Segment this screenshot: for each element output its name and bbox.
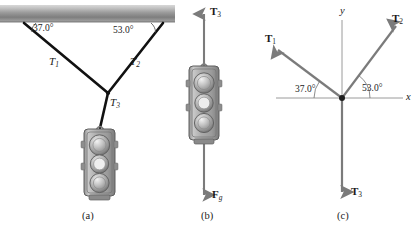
vector-label-t1-c: T1 (265, 33, 276, 45)
tension-label-t1-a: T1 (49, 56, 59, 68)
force-label-t3-b: T3 (210, 6, 221, 18)
traffic-light-b (186, 66, 222, 144)
ceiling-slab (0, 5, 175, 22)
vector-label-t2-c: T2 (392, 13, 403, 25)
x-axis-label: x (406, 92, 411, 103)
tension-label-t2-a: T2 (130, 56, 140, 68)
panel-c: y x 37.0° 53.0° T1 T2 T3 (c) (255, 0, 416, 227)
panel-b: T3 Fg (b) (150, 0, 260, 227)
angle-label-right-c: 53.0° (362, 83, 382, 93)
cable-t3 (100, 93, 108, 128)
panel-c-graphics (255, 0, 416, 227)
lamp-bot-a (90, 173, 109, 192)
vector-label-t3-c: T3 (351, 186, 362, 198)
panel-b-graphics (150, 0, 260, 227)
traffic-light-a (81, 129, 118, 200)
angle-label-left-c: 37.0° (295, 84, 315, 94)
knot (106, 91, 110, 95)
force-label-fg-b: Fg (212, 189, 222, 201)
panel-a-graphics (0, 0, 175, 227)
panel-a: 37.0° 53.0° T1 T2 T3 (a) (0, 0, 175, 227)
caption-c: (c) (337, 210, 349, 221)
lamp-bot-b (194, 113, 213, 132)
lamp-top-b (194, 73, 214, 93)
physics-figure: 37.0° 53.0° T1 T2 T3 (a) (0, 0, 416, 227)
caption-a: (a) (82, 210, 94, 221)
caption-b: (b) (201, 210, 213, 221)
tension-label-t3-a: T3 (110, 97, 120, 109)
cable-t1 (24, 23, 108, 93)
lamp-top-a (89, 135, 109, 155)
angle-label-right-a: 53.0° (113, 25, 133, 35)
origin-point (339, 95, 345, 101)
angle-label-left-a: 37.0° (33, 23, 53, 33)
y-axis-label: y (340, 6, 345, 17)
